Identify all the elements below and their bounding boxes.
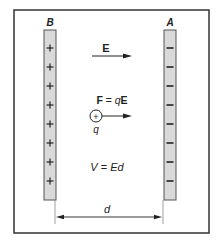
charge-symbol: + <box>93 112 98 122</box>
diagram-frame <box>14 10 209 233</box>
field-arrow-icon <box>123 54 132 59</box>
plate-b <box>44 30 56 200</box>
distance-arrow-left-icon <box>56 215 64 219</box>
force-equation: F = qE <box>96 94 127 106</box>
field-label: E <box>102 42 109 54</box>
force-arrow-icon <box>123 114 132 119</box>
plate-b-label: B <box>46 17 53 28</box>
distance-label: d <box>104 203 111 215</box>
plate-a <box>164 30 176 200</box>
voltage-equation: V = Ed <box>90 161 124 173</box>
diagram-canvas: B A E F = qE + q V = Ed d <box>0 0 217 249</box>
plate-a-label: A <box>165 17 173 28</box>
distance-arrow-right-icon <box>154 215 162 219</box>
charge-label: q <box>93 124 99 135</box>
